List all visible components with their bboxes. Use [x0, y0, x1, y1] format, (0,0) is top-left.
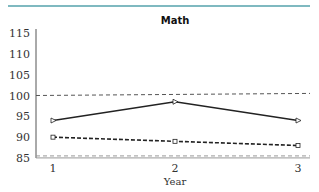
y-tick-label: 85: [16, 152, 30, 165]
series-group: [51, 99, 301, 147]
x-tick-label: 1: [50, 162, 57, 175]
y-tick-label: 115: [9, 27, 30, 40]
y-tick-label: 100: [9, 90, 30, 103]
x-tick-label: 2: [172, 162, 179, 175]
upper-reference-line: [36, 93, 310, 95]
data-point-solid: [296, 118, 301, 123]
x-axis-label: Year: [163, 176, 187, 187]
y-tick-label: 110: [9, 48, 30, 61]
y-tick-label: 105: [9, 69, 30, 82]
x-axis-ticks: 123: [50, 162, 302, 175]
y-tick-label: 90: [16, 131, 30, 144]
data-point-solid: [51, 118, 56, 123]
data-point-dashed: [173, 139, 177, 143]
data-point-dashed: [296, 144, 300, 148]
y-tick-label: 95: [16, 110, 30, 123]
x-tick-label: 3: [295, 162, 302, 175]
math-chart: Math 859095100105110115 123 Year: [0, 0, 319, 192]
data-point-dashed: [51, 135, 55, 139]
chart-title: Math: [161, 15, 190, 26]
data-point-solid: [173, 99, 178, 104]
y-axis-ticks: 859095100105110115: [9, 27, 30, 165]
series-line-solid: [53, 102, 298, 121]
